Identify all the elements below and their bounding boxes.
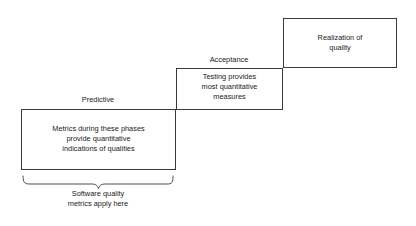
box-acceptance-body: Testing provides most quantitative measu…	[176, 72, 283, 103]
brace-icon	[23, 176, 173, 189]
staircase-diagram: Predictive Metrics during these phases p…	[0, 0, 416, 226]
box-predictive-body: Metrics during these phases provide quan…	[21, 124, 176, 155]
box-realization-body: Realization of quality	[283, 33, 397, 53]
stage-label-predictive: Predictive	[48, 95, 148, 105]
stage-label-acceptance: Acceptance	[179, 55, 279, 65]
brace-caption: Software quality metrics apply here	[23, 189, 173, 210]
